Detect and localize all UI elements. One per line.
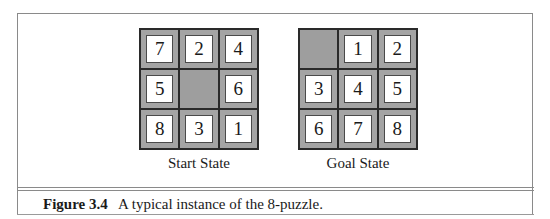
tile: 4 [344, 75, 371, 103]
start-state-label: Start State [139, 155, 259, 172]
goal-state-label: Goal State [298, 155, 418, 172]
figure-number: Figure 3.4 [43, 196, 108, 213]
tile: 8 [146, 115, 173, 143]
tile: 5 [384, 75, 411, 103]
tile: 2 [384, 35, 411, 63]
figure-caption: A typical instance of the 8-puzzle. [118, 196, 323, 213]
start-cell-2: 4 [219, 29, 258, 69]
tile: 8 [384, 115, 411, 143]
start-cell-5: 6 [219, 69, 258, 109]
start-cell-8: 1 [219, 109, 258, 149]
start-cell-0: 7 [140, 29, 179, 69]
tile: 6 [305, 115, 332, 143]
tile: 3 [305, 75, 332, 103]
tile: 2 [185, 35, 212, 63]
caption-divider-top [17, 187, 534, 188]
tile: 3 [185, 115, 212, 143]
goal-cell-6: 6 [299, 109, 338, 149]
tile: 7 [344, 115, 371, 143]
tile: 4 [225, 35, 252, 63]
goal-cell-5: 5 [378, 69, 417, 109]
goal-cell-2: 2 [378, 29, 417, 69]
caption-divider-bottom [17, 190, 534, 191]
start-state-board: 7 2 4 5 6 8 3 1 [139, 28, 259, 150]
goal-cell-4: 4 [338, 69, 377, 109]
start-cell-1: 2 [179, 29, 218, 69]
start-cell-3: 5 [140, 69, 179, 109]
start-cell-7: 3 [179, 109, 218, 149]
figure-bottom-border [17, 214, 534, 215]
goal-blank-cell [299, 29, 338, 69]
start-cell-6: 8 [140, 109, 179, 149]
tile: 1 [344, 35, 371, 63]
goal-cell-7: 7 [338, 109, 377, 149]
goal-cell-1: 1 [338, 29, 377, 69]
goal-state-board: 1 2 3 4 5 6 7 8 [298, 28, 418, 150]
goal-cell-3: 3 [299, 69, 338, 109]
start-blank-cell [179, 69, 218, 109]
goal-cell-8: 8 [378, 109, 417, 149]
tile: 7 [146, 35, 173, 63]
tile: 5 [146, 75, 173, 103]
tile: 6 [225, 75, 252, 103]
tile: 1 [225, 115, 252, 143]
figure-frame [17, 13, 533, 214]
